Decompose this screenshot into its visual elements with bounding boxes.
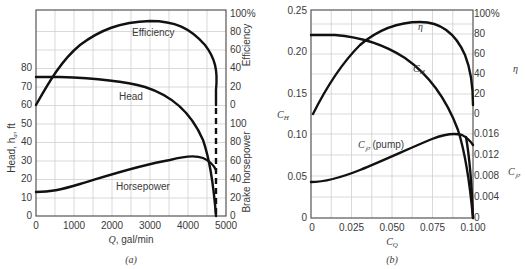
- svg-text:100%: 100%: [230, 8, 256, 19]
- svg-text:30: 30: [21, 155, 33, 166]
- svg-text:100: 100: [230, 118, 247, 129]
- panel-b-caption: (b): [386, 254, 398, 266]
- svg-text:0.15: 0.15: [288, 88, 308, 99]
- svg-text:0.050: 0.050: [379, 222, 404, 233]
- svg-text:0: 0: [33, 220, 39, 231]
- svg-text:0.20: 0.20: [288, 46, 308, 57]
- panel-b-eta-axis-label: η: [513, 63, 518, 74]
- cp-curve-label: C℘ (pump): [358, 139, 404, 152]
- svg-text:3000: 3000: [139, 220, 162, 231]
- svg-text:4000: 4000: [177, 220, 200, 231]
- svg-text:0: 0: [301, 212, 307, 223]
- svg-text:0.05: 0.05: [288, 171, 308, 182]
- svg-text:0.016: 0.016: [474, 128, 499, 139]
- svg-text:0.004: 0.004: [474, 191, 499, 202]
- svg-text:0: 0: [474, 212, 480, 223]
- pump-performance-figure: Efficiency Head Horsepower 0 1000 2000 3…: [0, 0, 525, 269]
- head-curve-label: Head: [119, 91, 143, 102]
- panel-b: η CH C℘ (pump) 0 0.025 0.050 0.075 0.100…: [277, 5, 521, 266]
- panel-a-bhp-axis-label: Brake horsepower: [241, 131, 252, 213]
- panel-b-x-ticks: 0 0.025 0.050 0.075 0.100: [309, 222, 486, 233]
- panel-a-caption: (a): [125, 254, 137, 266]
- svg-text:0: 0: [230, 210, 236, 221]
- svg-text:0: 0: [230, 99, 236, 110]
- svg-text:0: 0: [474, 108, 480, 119]
- panel-a-x-ticks: 0 1000 2000 3000 4000 5000: [33, 220, 237, 231]
- panel-a-x-label: Q, gal/min: [108, 234, 153, 245]
- svg-text:2000: 2000: [101, 220, 124, 231]
- cp-curve-drop: [466, 137, 473, 218]
- svg-text:0.025: 0.025: [339, 222, 364, 233]
- svg-text:40: 40: [21, 136, 33, 147]
- svg-text:0: 0: [26, 210, 32, 221]
- svg-text:0.100: 0.100: [460, 222, 485, 233]
- svg-text:60: 60: [230, 155, 242, 166]
- svg-text:50: 50: [21, 118, 33, 129]
- panel-b-left-ticks: 0 0.05 0.10 0.15 0.20 0.25: [288, 5, 308, 223]
- svg-text:20: 20: [474, 88, 486, 99]
- svg-text:0: 0: [309, 222, 315, 233]
- svg-text:60: 60: [230, 44, 242, 55]
- svg-text:20: 20: [230, 81, 242, 92]
- svg-text:60: 60: [474, 48, 486, 59]
- svg-text:80: 80: [474, 28, 486, 39]
- panel-a-left-axis-label: Head, ha, ft: [6, 123, 19, 173]
- svg-text:80: 80: [21, 62, 33, 73]
- svg-text:40: 40: [474, 68, 486, 79]
- panel-b-eta-ticks: 0 20 40 60 80 100%: [474, 8, 500, 119]
- svg-text:0.008: 0.008: [474, 170, 499, 181]
- svg-text:10: 10: [21, 192, 33, 203]
- svg-text:80: 80: [230, 136, 242, 147]
- svg-text:0.075: 0.075: [420, 222, 445, 233]
- svg-text:40: 40: [230, 62, 242, 73]
- svg-text:5000: 5000: [215, 220, 238, 231]
- panel-b-cp-ticks: 0 0.004 0.008 0.012 0.016: [474, 128, 499, 223]
- panel-b-x-label: CQ: [386, 236, 398, 249]
- efficiency-curve-label: Efficiency: [132, 27, 175, 38]
- svg-text:20: 20: [230, 192, 242, 203]
- panel-b-cp-axis-label: C℘: [508, 166, 521, 179]
- svg-text:60: 60: [21, 99, 33, 110]
- panel-b-left-axis-label: CH: [277, 109, 290, 122]
- svg-text:0.012: 0.012: [474, 149, 499, 160]
- svg-text:80: 80: [230, 26, 242, 37]
- eta-curve-label: η: [418, 21, 423, 32]
- svg-text:0.10: 0.10: [288, 129, 308, 140]
- svg-text:70: 70: [21, 81, 33, 92]
- panel-a: Efficiency Head Horsepower 0 1000 2000 3…: [6, 8, 256, 266]
- panel-a-left-ticks: 0 10 20 30 40 50 60 70 80: [21, 62, 33, 221]
- panel-b-grid: [311, 10, 473, 218]
- svg-text:100%: 100%: [474, 8, 500, 19]
- svg-text:1000: 1000: [63, 220, 86, 231]
- svg-text:40: 40: [230, 173, 242, 184]
- panel-a-efficiency-axis-label: Efficiency: [241, 24, 252, 67]
- horsepower-curve-label: Horsepower: [116, 181, 171, 192]
- svg-text:0.25: 0.25: [288, 5, 308, 16]
- svg-text:20: 20: [21, 173, 33, 184]
